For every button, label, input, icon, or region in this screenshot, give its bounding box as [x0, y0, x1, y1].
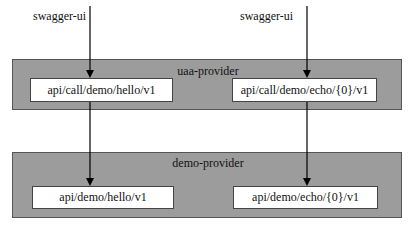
arrow-left-bottom	[86, 102, 94, 186]
arrow-left-top	[86, 6, 94, 78]
arrow-right-top	[303, 6, 311, 78]
edge-arrows	[0, 0, 416, 231]
arrow-right-bottom	[303, 102, 311, 186]
